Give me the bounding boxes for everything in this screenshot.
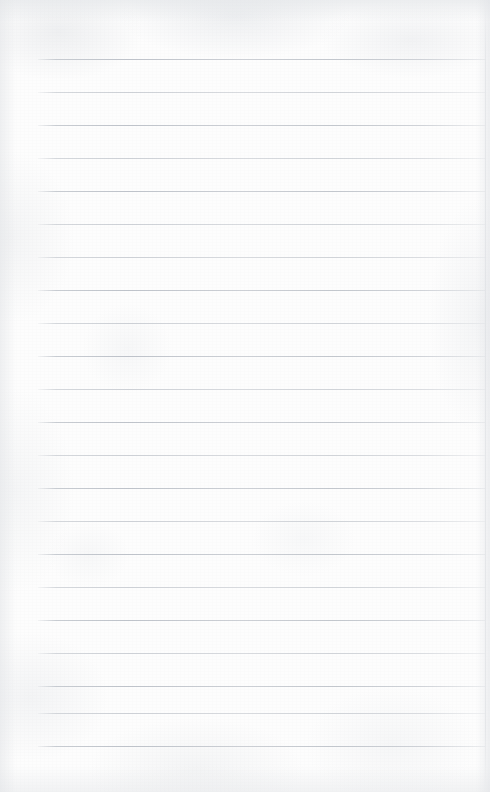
sheet-edge-right <box>485 0 486 792</box>
writing-area[interactable] <box>0 0 490 792</box>
notebook-page <box>0 0 490 792</box>
